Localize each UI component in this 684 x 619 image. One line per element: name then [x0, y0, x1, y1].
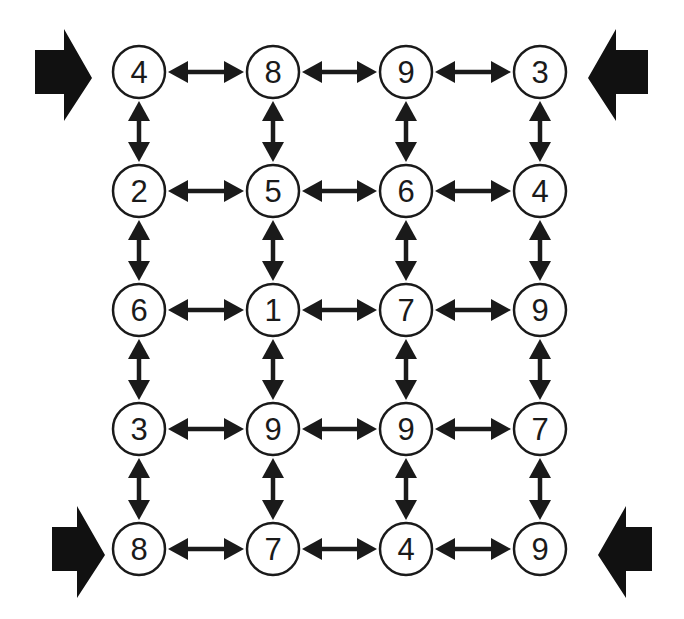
edge-c3-r0-to-r1	[529, 101, 551, 162]
edge-r3-c0-to-c1	[168, 418, 244, 440]
node-value: 8	[130, 532, 147, 567]
edge-c2-r1-to-r2	[395, 220, 417, 281]
grid-node: 2	[113, 165, 165, 217]
grid-node: 3	[113, 403, 165, 455]
edge-r2-c0-to-c1	[168, 299, 244, 321]
node-value: 5	[264, 174, 281, 209]
edge-r0-c2-to-c3	[435, 61, 511, 83]
node-value: 4	[130, 55, 147, 90]
node-value: 8	[264, 55, 281, 90]
entry-arrow-top-right-icon	[588, 29, 648, 121]
edge-c3-r2-to-r3	[529, 339, 551, 400]
entry-arrow-bottom-left-icon	[52, 506, 105, 598]
grid-node: 9	[514, 523, 566, 575]
grid-node: 6	[113, 284, 165, 336]
edge-r3-c2-to-c3	[435, 418, 511, 440]
grid-diagram: 48932564617939978749	[0, 0, 684, 619]
node-value: 6	[397, 174, 414, 209]
edge-r1-c1-to-c2	[302, 180, 377, 202]
grid-node: 9	[380, 403, 432, 455]
node-value: 4	[531, 174, 548, 209]
grid-node: 5	[247, 165, 299, 217]
node-value: 9	[397, 412, 414, 447]
edge-c2-r2-to-r3	[395, 339, 417, 400]
edge-r3-c1-to-c2	[302, 418, 377, 440]
grid-node: 6	[380, 165, 432, 217]
grid-node: 7	[380, 284, 432, 336]
grid-node: 9	[380, 46, 432, 98]
edge-c1-r2-to-r3	[262, 339, 284, 400]
edge-c3-r1-to-r2	[529, 220, 551, 281]
grid-node: 8	[247, 46, 299, 98]
grid-node: 4	[380, 523, 432, 575]
node-value: 9	[397, 55, 414, 90]
edge-r4-c2-to-c3	[435, 538, 511, 560]
node-value: 9	[264, 412, 281, 447]
grid-node: 9	[247, 403, 299, 455]
node-value: 7	[531, 412, 548, 447]
grid-node: 4	[514, 165, 566, 217]
edge-r4-c0-to-c1	[168, 538, 244, 560]
node-value: 9	[531, 293, 548, 328]
edge-c2-r0-to-r1	[395, 101, 417, 162]
grid-node: 8	[113, 523, 165, 575]
edge-c3-r3-to-r4	[529, 458, 551, 520]
node-value: 3	[130, 412, 147, 447]
edge-r0-c0-to-c1	[168, 61, 244, 83]
node-value: 3	[531, 55, 548, 90]
edge-r2-c1-to-c2	[302, 299, 377, 321]
edge-c1-r1-to-r2	[262, 220, 284, 281]
edges-layer	[128, 61, 551, 560]
entry-arrow-bottom-right-icon	[598, 506, 652, 598]
edge-c2-r3-to-r4	[395, 458, 417, 520]
node-value: 7	[397, 293, 414, 328]
edge-r1-c0-to-c1	[168, 180, 244, 202]
edge-r2-c2-to-c3	[435, 299, 511, 321]
grid-node: 1	[247, 284, 299, 336]
entry-arrow-top-left-icon	[35, 29, 92, 121]
grid-node: 3	[514, 46, 566, 98]
node-value: 2	[130, 174, 147, 209]
grid-node: 4	[113, 46, 165, 98]
edge-r0-c1-to-c2	[302, 61, 377, 83]
grid-node: 7	[514, 403, 566, 455]
grid-node: 9	[514, 284, 566, 336]
node-value: 9	[531, 532, 548, 567]
node-value: 1	[264, 293, 281, 328]
edge-c0-r2-to-r3	[128, 339, 150, 400]
edge-c0-r3-to-r4	[128, 458, 150, 520]
edge-r1-c2-to-c3	[435, 180, 511, 202]
grid-node: 7	[247, 523, 299, 575]
edge-c0-r0-to-r1	[128, 101, 150, 162]
node-value: 7	[264, 532, 281, 567]
node-value: 4	[397, 532, 414, 567]
node-value: 6	[130, 293, 147, 328]
edge-c1-r3-to-r4	[262, 458, 284, 520]
edge-c1-r0-to-r1	[262, 101, 284, 162]
edge-c0-r1-to-r2	[128, 220, 150, 281]
edge-r4-c1-to-c2	[302, 538, 377, 560]
